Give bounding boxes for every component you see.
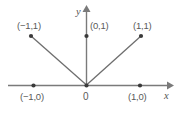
point-label-1-1: (1,1) <box>133 21 152 31</box>
absolute-value-graph-figure: (−1,1) (0,1) (1,1) (−1,0) (1,0) y x 0 <box>0 0 176 115</box>
point-marker-neg1-1 <box>29 34 33 38</box>
point-label-neg1-1: (−1,1) <box>17 21 41 31</box>
curve-left-branch <box>31 36 87 85</box>
point-marker-1-0 <box>138 83 142 87</box>
y-axis-label: y <box>76 7 81 18</box>
x-axis-label: x <box>164 91 169 102</box>
point-marker-1-1 <box>139 34 143 38</box>
point-label-1-0: (1,0) <box>128 92 147 102</box>
point-marker-origin <box>84 83 88 87</box>
point-marker-0-1 <box>84 34 88 38</box>
curve-right-branch <box>87 36 142 85</box>
y-axis-arrow-icon <box>83 5 91 12</box>
origin-label: 0 <box>83 92 89 102</box>
point-label-0-1: (0,1) <box>90 21 109 31</box>
point-label-neg1-0: (−1,0) <box>20 92 44 102</box>
point-marker-neg1-0 <box>31 83 35 87</box>
x-axis-arrow-icon <box>167 82 174 90</box>
